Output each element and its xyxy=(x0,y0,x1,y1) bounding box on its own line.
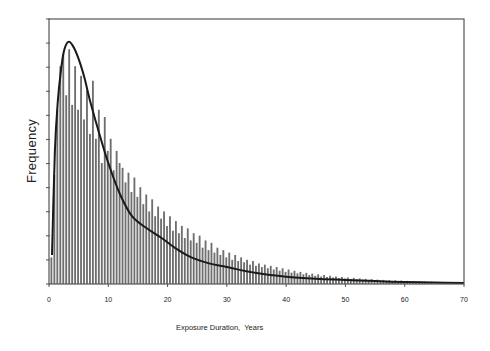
histogram-bar xyxy=(261,267,263,284)
histogram-bar xyxy=(59,66,61,284)
histogram-bar xyxy=(166,226,168,284)
histogram-chart xyxy=(0,0,490,351)
x-tick-label: 50 xyxy=(335,296,355,303)
histogram-bar xyxy=(208,250,210,284)
histogram-bar xyxy=(77,110,79,284)
histogram-bar xyxy=(89,134,91,284)
histogram-bar xyxy=(214,253,216,284)
histogram-bar xyxy=(80,76,82,284)
histogram-bar xyxy=(71,105,73,284)
histogram-bar xyxy=(196,243,198,284)
histogram-bar xyxy=(142,204,144,284)
histogram-bar xyxy=(136,197,138,284)
histogram-bar xyxy=(308,275,310,284)
histogram-bar xyxy=(255,266,257,284)
histogram-bar xyxy=(131,192,133,284)
histogram-bar xyxy=(178,233,180,284)
histogram-bar xyxy=(83,119,85,284)
histogram-bar xyxy=(154,216,156,284)
histogram-bar xyxy=(65,95,67,284)
histogram-bar xyxy=(148,211,150,284)
histogram-bar xyxy=(160,219,162,284)
x-tick-label: 0 xyxy=(39,296,59,303)
y-axis-title: Frequency xyxy=(24,119,39,183)
histogram-bar xyxy=(326,277,328,284)
histogram-bar xyxy=(302,274,304,284)
histogram-bar xyxy=(190,240,192,284)
histogram-bar xyxy=(314,276,316,284)
histogram-bar xyxy=(231,260,233,284)
histogram-bar xyxy=(101,163,103,284)
histogram-bar xyxy=(225,257,227,284)
histogram-bar xyxy=(113,170,115,284)
histogram-bar xyxy=(320,277,322,285)
histogram-bar xyxy=(125,182,127,284)
histogram-bar xyxy=(279,271,281,284)
histogram-bar xyxy=(74,66,76,284)
histogram-bar xyxy=(62,54,64,284)
histogram-bar xyxy=(237,261,239,284)
x-tick-label: 60 xyxy=(395,296,415,303)
histogram-bar xyxy=(249,265,251,284)
x-tick-label: 40 xyxy=(276,296,296,303)
histogram-bar xyxy=(181,226,183,284)
histogram-bar xyxy=(104,117,106,284)
x-tick-label: 70 xyxy=(454,296,474,303)
histogram-bar xyxy=(119,163,121,284)
histogram-bar xyxy=(56,110,58,284)
histogram-bar xyxy=(122,168,124,284)
x-tick-label: 30 xyxy=(217,296,237,303)
histogram-bar xyxy=(110,139,112,284)
histogram-bar xyxy=(163,211,165,284)
histogram-bar xyxy=(273,269,275,284)
histogram-bar xyxy=(86,90,88,284)
histogram-bar xyxy=(68,49,70,284)
histogram-bar xyxy=(107,151,109,284)
histogram-bar xyxy=(175,221,177,284)
histogram-bar xyxy=(50,257,52,284)
histogram-bar xyxy=(145,194,147,284)
histogram-bar xyxy=(151,199,153,284)
histogram-bars xyxy=(50,49,461,284)
x-axis-title: Exposure Duration, Years xyxy=(176,323,263,332)
x-tick-label: 10 xyxy=(98,296,118,303)
histogram-bar xyxy=(184,238,186,284)
histogram-bar xyxy=(285,272,287,284)
histogram-bar xyxy=(133,178,135,284)
histogram-bar xyxy=(95,139,97,284)
histogram-bar xyxy=(291,273,293,284)
histogram-bar xyxy=(267,268,269,284)
histogram-bar xyxy=(116,151,118,284)
x-tick-label: 20 xyxy=(158,296,178,303)
histogram-bar xyxy=(139,187,141,284)
histogram-bar xyxy=(169,216,171,284)
histogram-bar xyxy=(202,248,204,284)
histogram-bar xyxy=(157,207,159,284)
histogram-bar xyxy=(172,231,174,284)
histogram-bar xyxy=(219,255,221,284)
histogram-bar xyxy=(243,262,245,284)
histogram-bar xyxy=(128,173,130,284)
